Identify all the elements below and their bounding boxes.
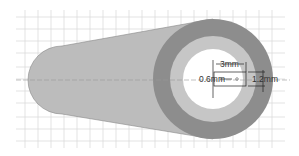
offset-dimension-label: 0.6mm: [199, 74, 225, 84]
height-dimension-label: 1.2mm: [252, 74, 278, 84]
cross-section-diagram: 3mm 1.2mm 0.6mm: [0, 0, 299, 156]
width-dimension-label: 3mm: [220, 59, 239, 69]
